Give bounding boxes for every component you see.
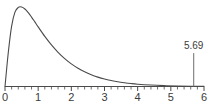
x-tick-label-3: 3: [97, 91, 113, 103]
x-tick-label-6: 6: [196, 91, 209, 103]
critical-value-label: 5.69: [177, 40, 209, 51]
x-tick-label-2: 2: [63, 91, 79, 103]
x-tick-label-0: 0: [0, 91, 13, 103]
x-tick-label-1: 1: [30, 91, 46, 103]
x-tick-label-5: 5: [163, 91, 179, 103]
distribution-chart: 0 1 2 3 4 5 6 5.69: [0, 0, 209, 107]
density-curve: [5, 7, 204, 87]
x-tick-label-4: 4: [130, 91, 146, 103]
